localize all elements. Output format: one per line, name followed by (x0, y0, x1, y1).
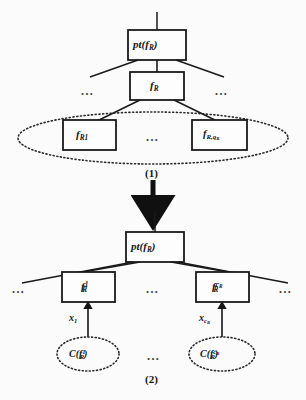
panel2-edge-right-label: xcR (199, 313, 210, 323)
panel2-ellipsis-far-right: ... (279, 283, 292, 295)
panel2-context-ellipse-right (189, 337, 255, 371)
diagram-vector-layer (0, 0, 306, 400)
figure-canvas: pt(fR) fR fR1 fR,qR ... ... ... (1) pt(f… (0, 0, 306, 400)
panel2-context-right-label: C(fcRR) (200, 349, 218, 359)
panel2-root-box-label: pt(fR) (131, 241, 155, 252)
panel2-ellipsis-bottom: ... (147, 350, 160, 362)
panel2-child-left-label: f1R (81, 281, 87, 292)
panel1-leaf-right-label: fR,qR (203, 129, 220, 140)
panel1-mid-edge-right (174, 100, 219, 122)
panel2-step-label: (2) (145, 374, 158, 385)
panel1-mid-edge-left (95, 100, 140, 122)
panel1-ellipsis-leaves: ... (146, 131, 159, 143)
panel2-context-ellipse-left (57, 337, 119, 371)
panel1-ellipsis-right: ... (215, 85, 228, 97)
panel2-child-right-box (196, 272, 249, 302)
panel2-context-left-label: C(f1R) (69, 349, 87, 359)
panel2-child-right-label: fcRR (212, 281, 218, 292)
panel2-ellipsis-far-left: ... (12, 283, 25, 295)
panel1-leaf-left-box (63, 120, 116, 150)
panel2-ellipsis-center: ... (146, 283, 159, 295)
panel1-root-box-label: pt(fR) (133, 39, 157, 50)
panel1-step-label: (1) (145, 168, 158, 179)
panel2-child-left-box (62, 272, 115, 302)
panel1-ellipsis-left: ... (81, 85, 94, 97)
panel1-leaf-left-label: fR1 (76, 129, 88, 140)
panel2-edge-left-label: x1 (69, 313, 77, 323)
panel2-edge-left (83, 262, 140, 272)
panel1-mid-box-label: fR (150, 80, 159, 91)
